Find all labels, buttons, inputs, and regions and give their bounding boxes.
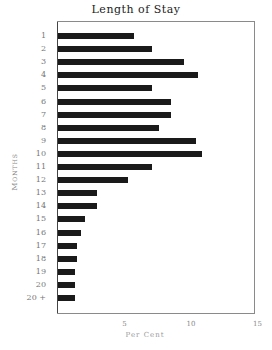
- y-tick-label: 15: [10, 214, 46, 223]
- y-tick-label: 2: [10, 44, 46, 53]
- x-tick-label: 10: [187, 320, 196, 328]
- y-tick-label: 8: [10, 123, 46, 132]
- y-tick-label: 7: [10, 110, 46, 119]
- y-tick-label: 10: [10, 149, 46, 158]
- y-tick-label: 13: [10, 188, 46, 197]
- bar: [58, 46, 152, 52]
- y-tick-label: 16: [10, 228, 46, 237]
- y-tick-label: 20 +: [10, 293, 46, 302]
- bar: [58, 99, 171, 105]
- y-tick-label: 20: [10, 280, 46, 289]
- bar: [58, 243, 77, 249]
- bar: [58, 151, 202, 157]
- x-tick-label: 15: [253, 320, 262, 328]
- y-tick-label: 5: [10, 83, 46, 92]
- y-tick-label: 14: [10, 201, 46, 210]
- bar: [58, 112, 171, 118]
- x-axis-label: Per Cent: [126, 331, 165, 339]
- y-tick-label: 4: [10, 70, 46, 79]
- bar: [58, 177, 128, 183]
- y-tick-label: 1: [10, 31, 46, 40]
- x-tick-label: 5: [122, 320, 126, 328]
- bar: [58, 282, 75, 288]
- bar: [58, 190, 97, 196]
- y-tick-label: 3: [10, 57, 46, 66]
- y-tick-label: 11: [10, 162, 46, 171]
- y-axis-label: Months: [10, 153, 19, 191]
- bar: [58, 59, 184, 65]
- y-tick-label: 9: [10, 136, 46, 145]
- bar: [58, 295, 75, 301]
- bar: [58, 230, 81, 236]
- chart-title: Length of Stay: [0, 3, 272, 16]
- bar: [58, 269, 75, 275]
- bar: [58, 138, 196, 144]
- y-tick-label: 6: [10, 97, 46, 106]
- bar: [58, 256, 77, 262]
- y-tick-label: 12: [10, 175, 46, 184]
- bar: [58, 125, 159, 131]
- bar: [58, 164, 152, 170]
- bar: [58, 216, 85, 222]
- y-tick-label: 18: [10, 254, 46, 263]
- bar: [58, 33, 134, 39]
- y-tick-label: 19: [10, 267, 46, 276]
- bar: [58, 203, 97, 209]
- bar: [58, 72, 198, 78]
- bar: [58, 85, 152, 91]
- y-tick-label: 17: [10, 241, 46, 250]
